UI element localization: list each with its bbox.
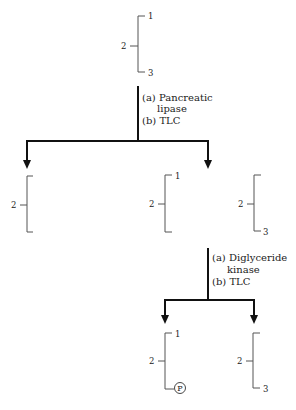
product-unreacted-diacylglycerol: 2 3 xyxy=(237,333,268,394)
arrowhead-icon xyxy=(204,160,212,169)
product-phosphatidate: 1 2 P xyxy=(149,329,186,394)
step2-label-a: (a) Diglyceride xyxy=(212,252,287,263)
position-3-label: 3 xyxy=(148,68,153,78)
position-2-label: 2 xyxy=(238,199,243,209)
position-1-label: 1 xyxy=(175,171,180,181)
position-2-label: 2 xyxy=(149,199,154,209)
position-1-label: 1 xyxy=(175,329,180,339)
position-2-label: 2 xyxy=(237,356,242,366)
phosphate-label: P xyxy=(177,384,183,393)
step1-label-a: (a) Pancreatic xyxy=(142,92,213,103)
product-monoacylglycerol: 2 xyxy=(11,176,33,232)
top-triacylglycerol: 1 2 3 xyxy=(121,11,153,78)
position-3-label: 3 xyxy=(263,227,268,237)
position-2-label: 2 xyxy=(121,41,126,51)
step2-label-a-cont: kinase xyxy=(227,264,260,275)
position-2-label: 2 xyxy=(149,356,154,366)
product-diacylglycerol-1-2: 1 2 xyxy=(149,171,180,232)
step1-label-b: (b) TLC xyxy=(142,115,181,126)
step2-label-b: (b) TLC xyxy=(212,276,251,287)
product-diacylglycerol-2-3: 2 3 xyxy=(238,175,268,237)
diagram-canvas: 1 2 3 (a) Pancreatic lipase (b) TLC 2 1 … xyxy=(0,0,296,410)
position-3-label: 3 xyxy=(263,384,268,394)
arrowhead-icon xyxy=(23,160,31,169)
position-2-label: 2 xyxy=(11,200,16,210)
position-1-label: 1 xyxy=(148,11,153,21)
arrowhead-icon xyxy=(250,315,258,324)
arrowhead-icon xyxy=(161,315,169,324)
step1-label-a-cont: lipase xyxy=(157,103,187,114)
